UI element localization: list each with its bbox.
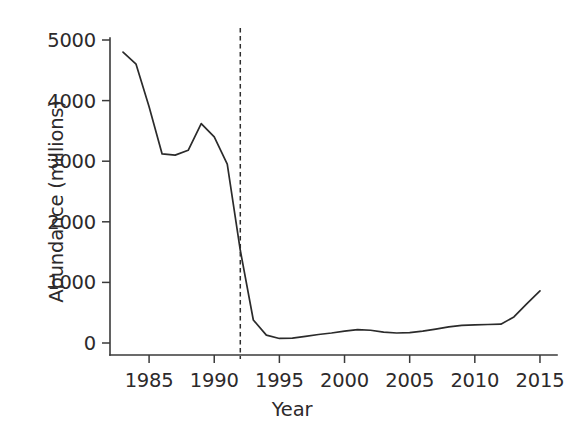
x-tick-label: 1995 [255, 369, 304, 392]
x-tick-label: 2010 [450, 369, 499, 392]
data-series-group [123, 52, 540, 338]
axes-group [110, 38, 557, 355]
y-tick-label: 5000 [0, 29, 96, 52]
x-axis-title: Year [272, 398, 313, 421]
x-tick-label: 1985 [125, 369, 174, 392]
x-tick-label: 1990 [190, 369, 239, 392]
figure-container: 010002000300040005000 198519901995200020… [0, 0, 585, 446]
x-tick-label: 2000 [320, 369, 369, 392]
x-tick-label: 2005 [385, 369, 434, 392]
series-line-0 [123, 52, 540, 338]
x-tick-label: 2015 [516, 369, 565, 392]
y-tick-label: 0 [0, 332, 96, 355]
tick-marks-group [102, 40, 540, 363]
y-axis-title: Abundance (millions) [45, 72, 68, 332]
